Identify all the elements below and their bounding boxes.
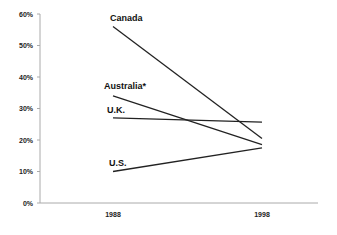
y-tick-label: 40% [19, 74, 34, 81]
y-tick-label: 0% [23, 200, 34, 207]
series-us: U.S. [109, 148, 262, 172]
y-axis: 0%10%20%30%40%50%60% [19, 11, 40, 207]
series-line [113, 148, 262, 172]
y-tick-label: 30% [19, 105, 34, 112]
y-tick-label: 50% [19, 42, 34, 49]
line-chart: 0%10%20%30%40%50%60% 19881998 CanadaAust… [0, 0, 337, 235]
x-axis: 19881998 [40, 203, 318, 218]
series-line [113, 118, 262, 122]
x-tick-label: 1998 [254, 211, 270, 218]
y-tick-label: 60% [19, 11, 34, 18]
series-group: CanadaAustralia*U.K.U.S. [104, 13, 262, 172]
series-label: U.K. [107, 105, 125, 115]
series-uk: U.K. [107, 105, 262, 122]
series-label: Australia* [104, 81, 147, 91]
series-label: Canada [110, 13, 144, 23]
y-tick-label: 20% [19, 137, 34, 144]
series-label: U.S. [109, 158, 127, 168]
x-tick-label: 1988 [105, 211, 121, 218]
y-tick-label: 10% [19, 168, 34, 175]
series-australia: Australia* [104, 81, 262, 145]
